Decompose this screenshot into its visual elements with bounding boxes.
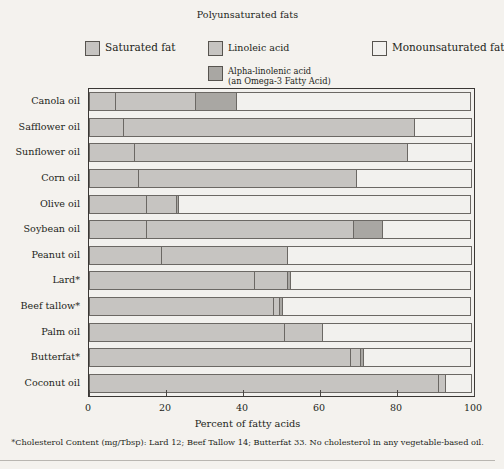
y-axis-label: Coconut oil bbox=[0, 373, 80, 392]
y-axis-label: Sunflower oil bbox=[0, 142, 80, 161]
x-axis-tick-label: 100 bbox=[464, 402, 482, 413]
y-axis-label: Corn oil bbox=[0, 168, 80, 187]
x-axis-tick bbox=[243, 390, 244, 396]
bar-segment-saturated bbox=[89, 323, 285, 342]
bar-segment-monounsaturated bbox=[382, 220, 471, 239]
bar-segment-linoleic bbox=[284, 323, 323, 342]
y-axis-label: Canola oil bbox=[0, 91, 80, 110]
stacked-bar bbox=[89, 271, 474, 290]
legend-label-ala-line1: Alpha-linolenic acid bbox=[228, 66, 311, 76]
bar-segment-monounsaturated bbox=[407, 143, 472, 162]
bar-segment-monounsaturated bbox=[363, 348, 471, 367]
y-axis-label: Olive oil bbox=[0, 194, 80, 213]
bar-segment-saturated bbox=[89, 143, 135, 162]
x-axis-tick-label: 20 bbox=[159, 402, 171, 413]
bar-row bbox=[89, 143, 474, 162]
x-axis-tick bbox=[474, 390, 475, 396]
stacked-bar bbox=[89, 195, 474, 214]
bar-segment-alpha-linolenic bbox=[195, 92, 237, 111]
bar-segment-linoleic bbox=[115, 92, 196, 111]
bar-row bbox=[89, 348, 474, 367]
x-axis-title: Percent of fatty acids bbox=[0, 418, 495, 429]
bar-segment-monounsaturated bbox=[414, 118, 472, 137]
bar-segment-saturated bbox=[89, 271, 255, 290]
bar-segment-linoleic bbox=[146, 220, 354, 239]
x-axis-tick-label: 0 bbox=[85, 402, 91, 413]
x-axis-tick bbox=[166, 390, 167, 396]
legend-item-linoleic-acid: Linoleic acid bbox=[208, 41, 289, 56]
bar-row bbox=[89, 271, 474, 290]
bar-segment-monounsaturated bbox=[282, 297, 471, 316]
bar-segment-monounsaturated bbox=[322, 323, 472, 342]
x-axis-tick bbox=[320, 390, 321, 396]
y-axis-label: Lard* bbox=[0, 270, 80, 289]
x-axis-tick-label: 40 bbox=[236, 402, 248, 413]
bar-segment-monounsaturated bbox=[287, 246, 472, 265]
legend-swatch-saturated-fat bbox=[85, 41, 100, 56]
stacked-bar bbox=[89, 169, 474, 188]
bar-segment-saturated bbox=[89, 220, 147, 239]
bar-row bbox=[89, 323, 474, 342]
x-axis-tick-label: 60 bbox=[313, 402, 325, 413]
bar-row bbox=[89, 220, 474, 239]
bar-segment-linoleic bbox=[134, 143, 407, 162]
y-axis-label: Butterfat* bbox=[0, 347, 80, 366]
bar-segment-monounsaturated bbox=[290, 271, 471, 290]
bar-segment-linoleic bbox=[138, 169, 357, 188]
legend-label-ala-line2: (an Omega-3 Fatty Acid) bbox=[228, 76, 331, 86]
bar-row bbox=[89, 374, 474, 393]
y-axis-labels: Canola oilSafflower oilSunflower oilCorn… bbox=[0, 88, 86, 397]
legend-label-linoleic-acid: Linoleic acid bbox=[228, 41, 289, 54]
bar-segment-saturated bbox=[89, 374, 439, 393]
stacked-bar bbox=[89, 374, 474, 393]
bar-segment-monounsaturated bbox=[356, 169, 472, 188]
bar-row bbox=[89, 195, 474, 214]
y-axis-label: Soybean oil bbox=[0, 219, 80, 238]
legend-swatch-linoleic-acid bbox=[208, 41, 223, 56]
bar-segment-linoleic bbox=[254, 271, 289, 290]
bar-row bbox=[89, 118, 474, 137]
bar-segment-saturated bbox=[89, 169, 139, 188]
legend-swatch-monounsaturated-fat bbox=[372, 41, 387, 56]
bar-row bbox=[89, 297, 474, 316]
bar-segment-saturated bbox=[89, 92, 116, 111]
y-axis-label: Peanut oil bbox=[0, 245, 80, 264]
legend-item-alpha-linolenic-acid: Alpha-linolenic acid (an Omega-3 Fatty A… bbox=[208, 66, 331, 86]
bar-segment-saturated bbox=[89, 348, 351, 367]
stacked-bar bbox=[89, 297, 474, 316]
legend-label-monounsaturated-fat: Monounsaturated fat bbox=[392, 41, 504, 53]
bar-segment-alpha-linolenic bbox=[353, 220, 384, 239]
x-axis-tick bbox=[397, 390, 398, 396]
stacked-bar bbox=[89, 348, 474, 367]
stacked-bar bbox=[89, 220, 474, 239]
y-axis-label: Palm oil bbox=[0, 322, 80, 341]
bar-segment-linoleic bbox=[123, 118, 416, 137]
bar-row bbox=[89, 246, 474, 265]
legend-item-saturated-fat: Saturated fat bbox=[85, 41, 176, 56]
bar-row bbox=[89, 169, 474, 188]
bar-segment-monounsaturated bbox=[178, 195, 471, 214]
bar-segment-saturated bbox=[89, 118, 124, 137]
stacked-bar bbox=[89, 246, 474, 265]
legend-label-alpha-linolenic-acid: Alpha-linolenic acid (an Omega-3 Fatty A… bbox=[228, 66, 331, 86]
bar-segment-monounsaturated bbox=[236, 92, 471, 111]
x-axis-tick bbox=[89, 390, 90, 396]
bar-segment-saturated bbox=[89, 246, 162, 265]
bar-segment-monounsaturated bbox=[445, 374, 472, 393]
bar-row bbox=[89, 92, 474, 111]
bar-segment-saturated bbox=[89, 195, 147, 214]
stacked-bar bbox=[89, 323, 474, 342]
bar-segment-saturated bbox=[89, 297, 274, 316]
x-axis-tick-label: 80 bbox=[390, 402, 402, 413]
plot-area bbox=[88, 88, 475, 397]
bar-segment-linoleic bbox=[161, 246, 288, 265]
y-axis-label: Beef tallow* bbox=[0, 296, 80, 315]
legend-group-title: Polyunsaturated fats bbox=[0, 9, 495, 20]
legend-item-monounsaturated-fat: Monounsaturated fat bbox=[372, 41, 504, 56]
stacked-bar bbox=[89, 118, 474, 137]
chart-footnote: *Cholesterol Content (mg/Tbsp): Lard 12;… bbox=[0, 437, 495, 447]
y-axis-label: Safflower oil bbox=[0, 117, 80, 136]
stacked-bar bbox=[89, 92, 474, 111]
bottom-divider bbox=[0, 460, 495, 461]
